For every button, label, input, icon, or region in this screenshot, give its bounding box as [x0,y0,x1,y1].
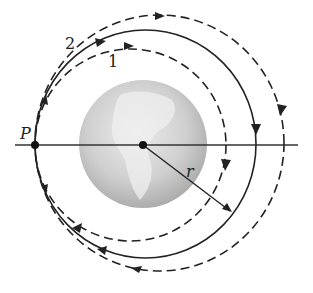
orbit-diagram: P 2 1 r [0,0,313,293]
point-p-dot [31,141,39,149]
label-orbit-2: 2 [65,34,75,53]
label-radius: r [186,162,195,181]
center-dot [139,141,147,149]
label-p: P [19,124,31,143]
diagram-canvas: P 2 1 r [0,0,313,293]
label-orbit-1: 1 [108,52,118,71]
